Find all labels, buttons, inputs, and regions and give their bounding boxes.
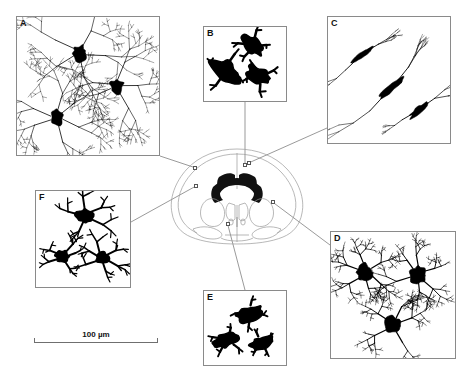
- microglia-process: [111, 141, 114, 142]
- microglia-process: [386, 125, 389, 126]
- microglia-process: [151, 44, 153, 47]
- microglia-process: [442, 303, 445, 304]
- microglia-process: [118, 31, 120, 34]
- microglia-process: [367, 340, 368, 346]
- microglia-process: [30, 64, 31, 68]
- microglia-process: [106, 143, 110, 146]
- microglia-process: [43, 250, 44, 254]
- microglia-process: [216, 78, 221, 85]
- microglia-process: [86, 109, 90, 110]
- atlas-amygdala-left: [193, 227, 222, 239]
- microglia-process: [343, 251, 344, 257]
- microglia-process: [61, 72, 64, 73]
- microglia-process: [435, 266, 441, 268]
- microglia-process: [50, 245, 52, 250]
- microglia-process: [114, 101, 119, 104]
- microglia-process: [90, 94, 99, 96]
- microglia-process: [23, 147, 27, 148]
- microglia-process: [74, 85, 78, 91]
- microglia-process: [141, 142, 142, 146]
- microglia-process: [376, 354, 379, 355]
- microglia-process: [35, 85, 39, 90]
- microglia-process: [64, 69, 66, 73]
- microglia-process: [139, 77, 142, 80]
- microglia-process: [124, 131, 125, 135]
- microglia-process: [427, 321, 430, 323]
- microglia-process: [440, 296, 446, 299]
- microglia-process: [393, 284, 394, 286]
- microglia-process: [151, 47, 156, 48]
- microglia-process: [370, 302, 371, 304]
- microglia-process: [421, 299, 422, 302]
- microglia-process: [101, 103, 104, 107]
- microglia-process: [147, 129, 149, 131]
- microglia-process: [80, 150, 86, 153]
- microglia-process: [263, 311, 266, 315]
- microglia-process: [43, 97, 44, 102]
- microglia-process: [337, 266, 341, 267]
- microglia-process: [17, 99, 21, 102]
- microglia-process: [71, 97, 73, 100]
- microglia-process: [156, 45, 159, 47]
- microglia-process: [139, 42, 146, 46]
- microglia-process: [31, 90, 35, 94]
- microglia-process: [128, 138, 130, 139]
- microglia-process: [155, 50, 158, 51]
- microglia-process: [30, 68, 36, 72]
- microglia-process: [25, 142, 26, 144]
- microglia-process: [131, 134, 133, 139]
- microglia-process: [29, 59, 31, 60]
- microglia-process: [389, 267, 391, 269]
- microglia-process: [139, 75, 143, 77]
- microglia-process: [371, 250, 375, 251]
- microglia-process: [369, 241, 370, 244]
- microglia-process: [151, 48, 154, 51]
- microglia-process: [217, 349, 220, 351]
- microglia-process: [359, 341, 362, 342]
- microglia-process: [355, 344, 358, 345]
- microglia-process: [21, 147, 23, 149]
- microglia-process: [26, 148, 27, 152]
- microglia-process: [115, 95, 117, 98]
- microglia-process: [83, 89, 86, 92]
- microglia-process: [357, 294, 361, 295]
- microglia-process: [111, 231, 116, 236]
- microglia-process: [384, 249, 385, 251]
- microglia-process: [377, 298, 378, 301]
- microglia-process: [19, 136, 22, 141]
- microglia-process: [132, 24, 134, 27]
- microglia-process: [422, 323, 423, 327]
- microglia-process: [17, 118, 18, 121]
- microglia-process: [91, 219, 103, 225]
- microglia-process: [129, 108, 136, 120]
- microglia-process: [136, 121, 138, 131]
- microglia-process: [116, 36, 119, 37]
- microglia-process: [153, 103, 154, 104]
- scale-bar-tick-right: [157, 338, 158, 343]
- microglia-process: [336, 253, 337, 255]
- microglia-soma: [409, 102, 428, 120]
- microglia-process: [35, 60, 37, 62]
- microglia-process: [428, 259, 431, 260]
- microglia-process: [83, 197, 85, 210]
- microglia-process: [89, 251, 97, 255]
- microglia-process: [375, 329, 387, 335]
- microglia-process: [19, 140, 21, 142]
- microglia-process: [108, 26, 110, 32]
- microglia-process: [55, 40, 74, 49]
- microglia-process: [23, 121, 24, 122]
- microglia-process: [440, 286, 444, 289]
- microglia-process: [121, 131, 125, 132]
- microglia-process: [349, 284, 351, 293]
- microglia-process: [244, 52, 249, 57]
- microglia-process: [114, 99, 119, 101]
- microglia-process: [335, 281, 338, 282]
- microglia-process: [79, 122, 92, 127]
- microglia-process: [252, 352, 255, 353]
- microglia-process: [378, 253, 380, 254]
- microglia-process: [380, 350, 383, 351]
- microglia-process: [141, 142, 144, 143]
- microglia-process: [93, 83, 111, 84]
- microglia-process: [138, 29, 139, 32]
- microglia-process: [448, 261, 449, 262]
